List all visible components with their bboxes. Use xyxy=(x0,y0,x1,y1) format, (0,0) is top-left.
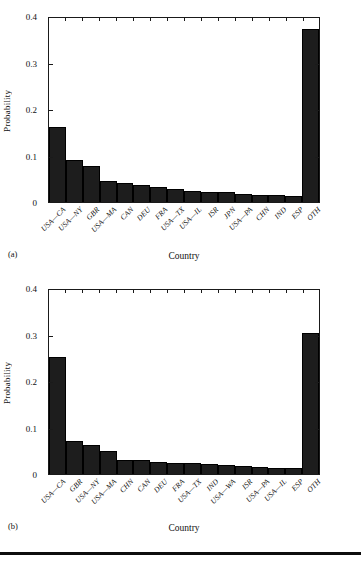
bar xyxy=(201,464,218,474)
bar xyxy=(49,357,66,474)
x-tick-mark-top xyxy=(99,17,100,21)
x-tick-label: OTH xyxy=(305,477,322,494)
figure-page: Probability 00.10.20.30.4 USA—CAUSA—NYGB… xyxy=(0,0,361,563)
x-tick-mark-top xyxy=(201,289,202,293)
x-tick-mark-top xyxy=(269,289,270,293)
bar xyxy=(83,445,100,474)
x-tick-mark-top xyxy=(218,17,219,21)
x-tick-label: USA—CA xyxy=(39,477,67,505)
x-tick-label-group-a: USA—CAUSA—NYGBRUSA—MACANDEUFRAUSA—TXUSA—… xyxy=(48,205,320,253)
x-tick-mark-top xyxy=(133,289,134,293)
bar xyxy=(285,196,302,202)
x-axis-title-a: Country xyxy=(48,251,320,261)
plot-area-b: Probability 00.10.20.30.4 USA—CAGBRUSA—N… xyxy=(0,272,361,544)
x-tick-mark-top xyxy=(201,17,202,21)
x-tick-label: CHN xyxy=(253,205,271,223)
x-tick-mark-top xyxy=(303,289,304,293)
y-tick-label: 0.4 xyxy=(11,13,37,22)
bar xyxy=(235,194,252,202)
y-tick-mark xyxy=(48,429,53,430)
x-tick-mark-top xyxy=(82,289,83,293)
x-tick-mark-top xyxy=(252,17,253,21)
x-tick-mark-top xyxy=(99,289,100,293)
x-tick-mark-top xyxy=(235,289,236,293)
bar xyxy=(83,166,100,202)
bar-series-b xyxy=(49,290,319,474)
x-tick-label: IND xyxy=(272,205,288,221)
bar xyxy=(302,29,319,202)
bar xyxy=(117,460,134,474)
bar xyxy=(167,189,184,202)
x-tick-mark-top xyxy=(65,289,66,293)
y-tick-mark xyxy=(48,64,53,65)
x-tick-mark-top xyxy=(286,17,287,21)
y-tick-label: 0.3 xyxy=(11,59,37,68)
y-tick-label: 0.1 xyxy=(11,424,37,433)
x-tick-label: ESP xyxy=(289,205,305,221)
bar xyxy=(117,183,134,202)
y-tick-mark-right xyxy=(315,429,320,430)
y-tick-mark-right xyxy=(315,64,320,65)
y-tick-mark-right xyxy=(315,382,320,383)
x-tick-mark-top xyxy=(150,17,151,21)
x-tick-mark-top xyxy=(269,17,270,21)
x-tick-label: ESP xyxy=(289,477,305,493)
y-tick-mark xyxy=(48,110,53,111)
x-tick-label: OTH xyxy=(305,205,322,222)
x-tick-label: ISR xyxy=(206,205,220,219)
bar xyxy=(235,466,252,474)
plot-area-a: Probability 00.10.20.30.4 USA—CAUSA—NYGB… xyxy=(0,0,361,272)
chart-panel-a: Probability 00.10.20.30.4 USA—CAUSA—NYGB… xyxy=(0,0,361,272)
y-tick-label: 0.4 xyxy=(11,285,37,294)
x-tick-mark-top xyxy=(184,289,185,293)
y-tick-mark xyxy=(48,382,53,383)
y-tick-label: 0.2 xyxy=(11,378,37,387)
x-tick-mark-top xyxy=(116,289,117,293)
x-tick-mark-top xyxy=(252,289,253,293)
x-tick-mark-top xyxy=(116,17,117,21)
y-tick-label: 0.2 xyxy=(11,106,37,115)
bar xyxy=(150,462,167,474)
x-tick-mark-top xyxy=(133,17,134,21)
y-tick-label: 0 xyxy=(11,471,37,480)
bottom-divider-rule xyxy=(0,552,361,555)
bar xyxy=(66,441,83,474)
axes-box-b xyxy=(48,289,320,475)
x-tick-mark-top xyxy=(65,17,66,21)
x-tick-mark-top xyxy=(82,17,83,21)
y-tick-mark-right xyxy=(315,110,320,111)
x-tick-mark-top xyxy=(167,289,168,293)
panel-tag-a: (a) xyxy=(8,249,17,259)
x-tick-mark-top xyxy=(184,17,185,21)
x-tick-label: CHN xyxy=(117,477,135,495)
y-tick-mark-right xyxy=(315,336,320,337)
bar xyxy=(268,468,285,474)
y-tick-label: 0.3 xyxy=(11,331,37,340)
bar xyxy=(218,192,235,202)
panel-tag-b: (b) xyxy=(8,521,18,531)
x-tick-mark-top xyxy=(218,289,219,293)
x-tick-label: DEU xyxy=(151,477,169,495)
y-tick-label: 0.1 xyxy=(11,152,37,161)
bar xyxy=(302,333,319,474)
chart-panel-b: Probability 00.10.20.30.4 USA—CAGBRUSA—N… xyxy=(0,272,361,544)
bar xyxy=(133,185,150,202)
bar xyxy=(268,195,285,202)
y-tick-mark xyxy=(48,157,53,158)
axes-box-a xyxy=(48,17,320,203)
bar xyxy=(252,467,269,474)
bar xyxy=(133,460,150,474)
bar xyxy=(285,468,302,474)
bar xyxy=(49,127,66,202)
bar xyxy=(100,181,117,202)
x-tick-label: DEU xyxy=(134,205,152,223)
bar xyxy=(66,160,83,202)
x-axis-title-b: Country xyxy=(48,523,320,533)
x-tick-mark-top xyxy=(303,17,304,21)
x-tick-mark-top xyxy=(167,17,168,21)
x-tick-mark-top xyxy=(286,289,287,293)
x-tick-label-group-b: USA—CAGBRUSA—NYUSA—MACHNCANDEUFRAUSA—TXI… xyxy=(48,477,320,525)
bar xyxy=(100,451,117,474)
x-tick-mark-top xyxy=(150,289,151,293)
bar xyxy=(184,463,201,474)
